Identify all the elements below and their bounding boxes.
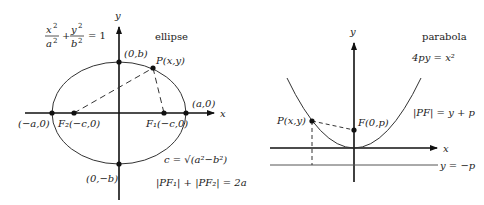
ellipse-y-label: y [114,10,121,21]
point-f2 [71,110,76,115]
point-focus [351,127,356,132]
parabola-title: parabola [422,31,467,42]
point-p [309,118,314,123]
directrix-label: y = −p [439,160,476,171]
label-f2: F₂(−c,0) [57,118,100,129]
ellipse-equation: x 2 a 2 + y 2 b 2 = 1 [45,22,106,49]
eq-y-exp: 2 [78,22,82,30]
eq-a-exp: 2 [53,37,57,45]
label-bottom: (0,−b) [86,173,118,184]
parabola-y-label: y [349,26,356,37]
eq-b-exp: 2 [78,37,82,45]
label-p: P(x,y) [155,55,185,66]
label-f1: F₁(−c,0) [145,118,188,129]
parabola-figure: parabola 4py = x² x y y = −p F(0,p) P(x,… [270,26,476,182]
point-bottom [116,161,121,166]
ellipse-x-label: x [220,108,226,119]
label-top: (0,b) [124,48,148,59]
conic-sections-diagram: x 2 a 2 + y 2 b 2 = 1 ellipse x y [0,0,484,205]
parabola-x-label: x [443,143,449,154]
eq-plus: + [62,30,70,41]
ellipse-title: ellipse [155,31,188,42]
eq-x-exp: 2 [53,22,57,30]
c-relation: c = √(a²−b²) [164,154,227,165]
point-top [116,59,121,64]
eq-rhs: = 1 [88,30,106,41]
label-left-vertex: (−a,0) [18,118,50,129]
eq-x: x [46,24,52,35]
eq-b: b [71,38,77,49]
eq-a: a [46,38,52,49]
point-f1 [161,110,166,115]
pf1-line [153,68,164,113]
label-right-vertex: (a,0) [192,98,215,109]
eq-y: y [70,24,77,35]
focal-sum: |PF₁| + |PF₂| = 2a [156,177,247,189]
label-p: P(x,y) [276,115,306,126]
point-right-vertex [183,110,188,115]
label-focus: F(0,p) [357,117,389,128]
point-left-vertex [49,110,54,115]
parabola-equation: 4py = x² [411,52,455,63]
ellipse-figure: x 2 a 2 + y 2 b 2 = 1 ellipse x y [18,10,247,200]
pf2-line [74,68,153,113]
point-p [150,65,155,70]
focal-relation: |PF| = y + p [413,107,476,119]
